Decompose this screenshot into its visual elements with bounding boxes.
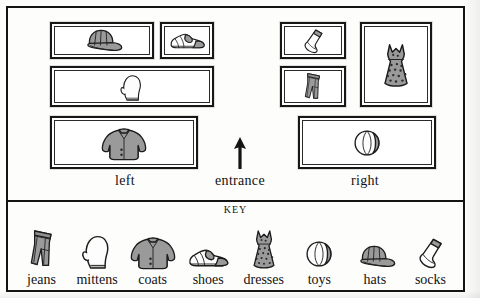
- coat-icon: [99, 123, 149, 163]
- shelf-coats[interactable]: [50, 116, 198, 169]
- shelf-mittens-inner: [54, 70, 210, 103]
- label-left: left: [80, 173, 170, 189]
- key-label-shoes: shoes: [193, 273, 224, 288]
- mitten-icon: [71, 226, 123, 272]
- key-item-coats[interactable]: coats: [125, 226, 180, 288]
- shelf-coats-inner: [54, 120, 194, 165]
- shelf-hats[interactable]: [50, 22, 154, 59]
- shelf-socks-inner: [284, 26, 342, 55]
- shelf-socks[interactable]: [280, 22, 346, 59]
- key-item-jeans[interactable]: jeans: [14, 226, 69, 288]
- shelf-hats-inner: [54, 26, 150, 55]
- ball-icon: [350, 126, 384, 160]
- scan-edge-shading-right: [467, 0, 480, 298]
- key-item-shoes[interactable]: shoes: [181, 226, 236, 288]
- key-label-hats: hats: [364, 273, 387, 288]
- cap-icon: [349, 226, 401, 272]
- label-entrance: entrance: [190, 173, 290, 189]
- key-item-hats[interactable]: hats: [347, 226, 402, 288]
- coat-icon: [127, 226, 179, 272]
- jeans-icon: [300, 70, 326, 103]
- key-label-mittens: mittens: [76, 273, 117, 288]
- jeans-icon: [16, 226, 68, 272]
- scan-edge-shading-bottom: [0, 292, 480, 298]
- shelf-mittens[interactable]: [50, 66, 214, 107]
- sock-icon: [404, 226, 456, 272]
- worksheet-page: left entrance right KEY jeans mittens: [0, 0, 480, 298]
- key-item-mittens[interactable]: mittens: [70, 226, 125, 288]
- key-label-jeans: jeans: [27, 273, 56, 288]
- shelf-shoes-inner: [164, 26, 210, 55]
- dress-icon: [374, 39, 418, 91]
- sock-icon: [299, 26, 327, 56]
- up-arrow-icon: [230, 136, 250, 170]
- ball-icon: [293, 226, 345, 272]
- shoe-icon: [166, 29, 208, 53]
- shelf-jeans-inner: [284, 70, 342, 103]
- key-item-toys[interactable]: toys: [292, 226, 347, 288]
- key-label-socks: socks: [415, 273, 446, 288]
- key-label-toys: toys: [308, 273, 331, 288]
- key-item-dresses[interactable]: dresses: [236, 226, 291, 288]
- key-label-coats: coats: [138, 273, 167, 288]
- shelf-dresses[interactable]: [360, 22, 432, 107]
- key-item-socks[interactable]: socks: [403, 226, 458, 288]
- key-legend: KEY jeans mittens coats: [8, 202, 463, 291]
- shelf-jeans[interactable]: [280, 66, 346, 107]
- shelf-shoes[interactable]: [160, 22, 214, 59]
- store-map: left entrance right: [8, 8, 463, 200]
- label-right: right: [320, 173, 410, 189]
- key-label-dresses: dresses: [244, 273, 284, 288]
- shelf-toys-inner: [302, 120, 432, 165]
- shoe-icon: [182, 226, 234, 272]
- entrance-arrow: [230, 136, 250, 170]
- cap-icon: [79, 27, 125, 55]
- shelf-dresses-inner: [364, 26, 428, 103]
- key-item-list: jeans mittens coats shoes: [14, 214, 458, 288]
- shelf-toys[interactable]: [298, 116, 436, 169]
- mitten-icon: [118, 71, 146, 103]
- dress-icon: [238, 226, 290, 272]
